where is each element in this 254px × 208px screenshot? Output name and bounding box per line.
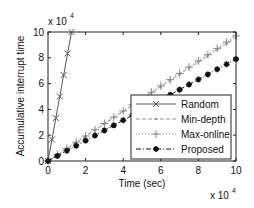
legend-label: Random bbox=[181, 99, 219, 110]
y-tick-label: 10 bbox=[33, 27, 45, 38]
y-exponent-base: x 10 bbox=[48, 16, 67, 27]
x-tick-label: 4 bbox=[120, 165, 126, 176]
x-tick-label: 10 bbox=[230, 165, 242, 176]
chart: 02468100246810 Time (sec) x 10 4 x 10 4 … bbox=[0, 0, 254, 208]
y-tick-label: 8 bbox=[38, 52, 44, 63]
x-tick-label: 8 bbox=[196, 165, 202, 176]
y-tick-label: 2 bbox=[38, 130, 44, 141]
y-axis-label: Accumulative interrupt time bbox=[15, 35, 26, 156]
legend: RandomMin-depthMax-onlineProposed bbox=[131, 95, 231, 159]
x-exponent-base: x 10 bbox=[210, 190, 229, 201]
legend-label: Min-depth bbox=[181, 114, 225, 125]
y-tick-label: 0 bbox=[38, 156, 44, 167]
x-exponent-power: 4 bbox=[232, 187, 236, 194]
legend-label: Max-online bbox=[181, 129, 230, 140]
y-exponent-power: 4 bbox=[70, 12, 74, 19]
x-tick-label: 2 bbox=[83, 165, 89, 176]
x-axis-label: Time (sec) bbox=[119, 178, 166, 189]
x-tick-label: 6 bbox=[158, 165, 164, 176]
y-tick-label: 6 bbox=[38, 78, 44, 89]
series-random bbox=[45, 29, 75, 164]
y-tick-label: 4 bbox=[38, 104, 44, 115]
x-tick-label: 0 bbox=[45, 165, 51, 176]
legend-label: Proposed bbox=[181, 144, 224, 155]
